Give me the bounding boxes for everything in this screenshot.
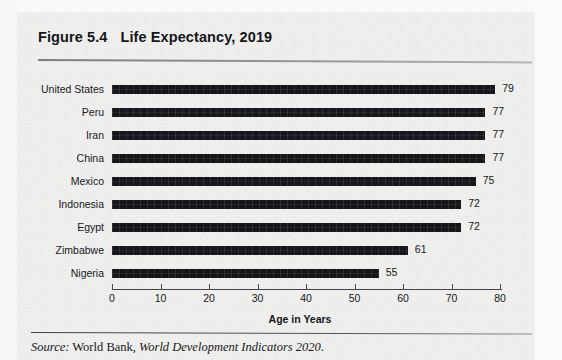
x-axis-tick-label: 10 (155, 292, 167, 304)
bar-row: Egypt72 (0, 218, 562, 241)
bar-row: Iran77 (0, 126, 562, 149)
x-axis-tick (452, 284, 453, 290)
bar-row: Nigeria55 (0, 264, 562, 287)
bar-value-label: 79 (502, 82, 514, 94)
bar-row: United States79 (0, 80, 562, 103)
x-axis-tick (112, 284, 113, 290)
source-prefix: Source: (31, 340, 69, 354)
bar-chart: United States79Peru77Iran77China77Mexico… (0, 0, 562, 360)
bar-row: Indonesia72 (0, 195, 562, 218)
x-axis-tick (161, 284, 162, 290)
source-terminator: . (321, 340, 324, 354)
bar (112, 269, 379, 278)
x-axis-tick (209, 284, 210, 290)
category-label: Mexico (0, 175, 104, 187)
bar-value-label: 72 (468, 197, 480, 209)
x-axis-tick (403, 284, 404, 290)
bar (112, 108, 485, 117)
x-axis-tick-label: 60 (397, 292, 409, 304)
bar (112, 154, 485, 163)
category-label: Nigeria (0, 267, 104, 279)
bar (112, 85, 495, 94)
x-axis-title: Age in Years (0, 313, 562, 325)
bar-value-label: 77 (492, 105, 504, 117)
category-label: China (0, 152, 104, 164)
bar (112, 246, 408, 255)
category-label: Egypt (0, 221, 104, 233)
source-publisher: World Bank, (69, 340, 139, 354)
bar-value-label: 75 (483, 174, 495, 186)
category-label: Peru (0, 106, 104, 118)
x-axis-tick-label: 40 (300, 292, 312, 304)
source-note: Source: World Bank, World Development In… (31, 340, 324, 355)
bar-value-label: 61 (415, 243, 427, 255)
category-label: Indonesia (0, 198, 104, 210)
x-axis-tick-label: 50 (349, 292, 361, 304)
bar (112, 223, 461, 232)
bar (112, 200, 461, 209)
bar (112, 177, 476, 186)
category-label: United States (0, 83, 104, 95)
x-axis-tick (500, 284, 501, 290)
x-axis-tick-label: 30 (252, 292, 264, 304)
bar (112, 131, 485, 140)
x-axis-tick-label: 20 (203, 292, 215, 304)
bar-value-label: 77 (492, 128, 504, 140)
scanned-page: Figure 5.4Life Expectancy, 2019 United S… (0, 0, 562, 360)
bar-row: China77 (0, 149, 562, 172)
x-axis-tick (306, 284, 307, 290)
x-axis-title-text: Age in Years (269, 313, 332, 325)
bar-row: Zimbabwe61 (0, 241, 562, 264)
x-axis-tick-label: 70 (446, 292, 458, 304)
x-axis-tick-label: 80 (494, 292, 506, 304)
bar-value-label: 72 (468, 220, 480, 232)
bar-value-label: 55 (386, 266, 398, 278)
category-label: Zimbabwe (0, 244, 104, 256)
source-publication: World Development Indicators 2020 (139, 340, 321, 354)
category-label: Iran (0, 129, 104, 141)
x-axis-tick (355, 284, 356, 290)
x-axis-tick (258, 284, 259, 290)
bar-row: Peru77 (0, 103, 562, 126)
bar-value-label: 77 (492, 151, 504, 163)
bar-row: Mexico75 (0, 172, 562, 195)
x-axis-tick-label: 0 (109, 292, 115, 304)
